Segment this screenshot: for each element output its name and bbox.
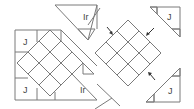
- label-j-top-right: J: [167, 12, 172, 22]
- label-j-bottom-right: J: [168, 86, 173, 96]
- left-assembled-block: J J Ir: [15, 30, 97, 100]
- label-j-bottom: J: [23, 85, 28, 95]
- top-right-corner-triangle: J: [150, 7, 180, 37]
- label-ir-top: Ir: [83, 12, 89, 22]
- label-ir-bottom: Ir: [80, 85, 86, 95]
- label-j-top: J: [23, 37, 28, 47]
- quilt-diagram: J J Ir Ir J: [0, 0, 194, 109]
